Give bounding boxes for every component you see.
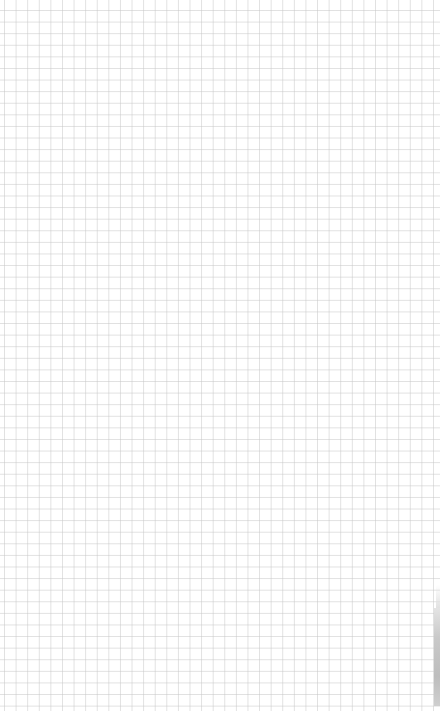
edge-shadow-fade <box>436 585 440 609</box>
grid-paper-background <box>0 0 440 711</box>
right-edge-gray-bar <box>434 608 440 706</box>
